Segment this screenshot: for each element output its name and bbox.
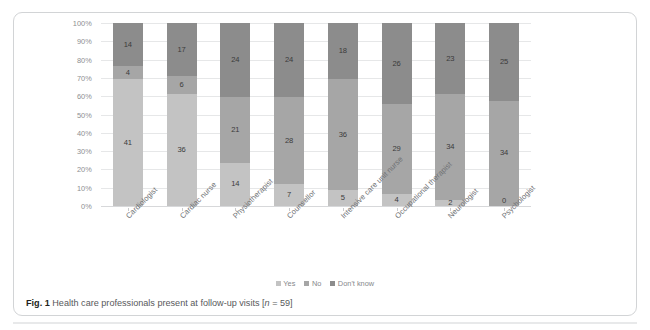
bar-value-label: 41: [124, 139, 132, 147]
bar-value-label: 21: [231, 126, 239, 134]
bar-value-label: 17: [177, 46, 185, 54]
caption-text: Health care professionals present at fol…: [50, 298, 265, 308]
y-axis-tick-label: 10%: [77, 183, 92, 192]
bar-segment: 23: [435, 23, 465, 94]
caption-divider: [13, 322, 637, 324]
bar-value-label: 34: [500, 149, 508, 157]
bar-value-label: 24: [231, 56, 239, 64]
legend-item[interactable]: No: [304, 279, 321, 288]
legend-item[interactable]: Yes: [276, 279, 296, 288]
bar-segment: 36: [328, 79, 358, 191]
legend-swatch-icon: [304, 281, 309, 286]
bar-segment: 29: [382, 104, 412, 194]
bar-value-label: 28: [285, 137, 293, 145]
y-axis: 100%90%80%70%60%50%40%30%20%10%0%: [44, 23, 97, 206]
bar-segment: 34: [435, 94, 465, 199]
y-axis-tick-label: 50%: [77, 110, 92, 119]
bar-value-label: 7: [287, 191, 291, 199]
bar-value-label: 14: [124, 41, 132, 49]
bar-group: 1444117636242114242871836526294233422534…: [101, 23, 531, 206]
bar-segment: 34: [489, 101, 519, 206]
bar-segment: 24: [274, 23, 304, 97]
figure-number: Fig. 1: [26, 298, 50, 308]
bar-column[interactable]: 18365: [328, 23, 358, 206]
x-axis: CardiologistCardiac nursePhysiotherapist…: [101, 208, 531, 278]
bar-value-label: 6: [180, 81, 184, 89]
legend-label: Yes: [283, 279, 295, 288]
bar-segment: 28: [274, 97, 304, 184]
legend-item[interactable]: Don't know: [330, 279, 374, 288]
y-axis-tick-label: 90%: [77, 37, 92, 46]
y-axis-tick-label: 80%: [77, 55, 92, 64]
bar-value-label: 26: [392, 60, 400, 68]
bar-column[interactable]: 24287: [274, 23, 304, 206]
y-axis-tick-label: 30%: [77, 147, 92, 156]
legend-label: Don't know: [338, 279, 374, 288]
bar-value-label: 29: [392, 145, 400, 153]
bar-value-label: 36: [177, 146, 185, 154]
y-axis-tick-label: 0%: [81, 202, 92, 211]
chart-area: 100%90%80%70%60%50%40%30%20%10%0% 144411…: [14, 13, 636, 295]
bar-value-label: 4: [126, 69, 130, 77]
bar-segment: 18: [328, 23, 358, 79]
y-axis-tick-label: 100%: [73, 19, 92, 28]
bar-value-label: 23: [446, 55, 454, 63]
bar-column[interactable]: 14441: [113, 23, 143, 206]
bar-value-label: 4: [395, 196, 399, 204]
bar-value-label: 14: [231, 180, 239, 188]
bar-segment: 21: [220, 97, 250, 162]
bar-column[interactable]: 17636: [167, 23, 197, 206]
bar-segment: 41: [113, 79, 143, 206]
bar-value-label: 34: [446, 143, 454, 151]
y-axis-tick-label: 70%: [77, 73, 92, 82]
bar-segment: 24: [220, 23, 250, 97]
figure-caption: Fig. 1 Health care professionals present…: [26, 298, 626, 308]
bar-value-label: 2: [448, 199, 452, 207]
bar-segment: 36: [167, 94, 197, 206]
bar-value-label: 18: [339, 47, 347, 55]
bar-column[interactable]: 242114: [220, 23, 250, 206]
legend-swatch-icon: [330, 281, 335, 286]
legend-label: No: [312, 279, 321, 288]
bar-value-label: 24: [285, 56, 293, 64]
bar-value-label: 36: [339, 131, 347, 139]
bar-segment: 14: [113, 23, 143, 66]
caption-n-value: = 59]: [270, 298, 293, 308]
bar-value-label: 5: [341, 194, 345, 202]
bar-value-label: 25: [500, 58, 508, 66]
bar-segment: 4: [113, 66, 143, 78]
y-axis-tick-label: 40%: [77, 128, 92, 137]
legend-swatch-icon: [276, 281, 281, 286]
bar-segment: 6: [167, 76, 197, 95]
figure-frame: 100%90%80%70%60%50%40%30%20%10%0% 144411…: [13, 12, 637, 316]
bar-segment: 25: [489, 23, 519, 101]
y-axis-tick-label: 20%: [77, 165, 92, 174]
bar-column[interactable]: 25340: [489, 23, 519, 206]
bar-segment: 17: [167, 23, 197, 76]
y-axis-tick-label: 60%: [77, 92, 92, 101]
bar-value-label: 0: [502, 197, 506, 205]
bar-segment: 26: [382, 23, 412, 104]
chart-legend: YesNoDon't know: [14, 279, 636, 288]
